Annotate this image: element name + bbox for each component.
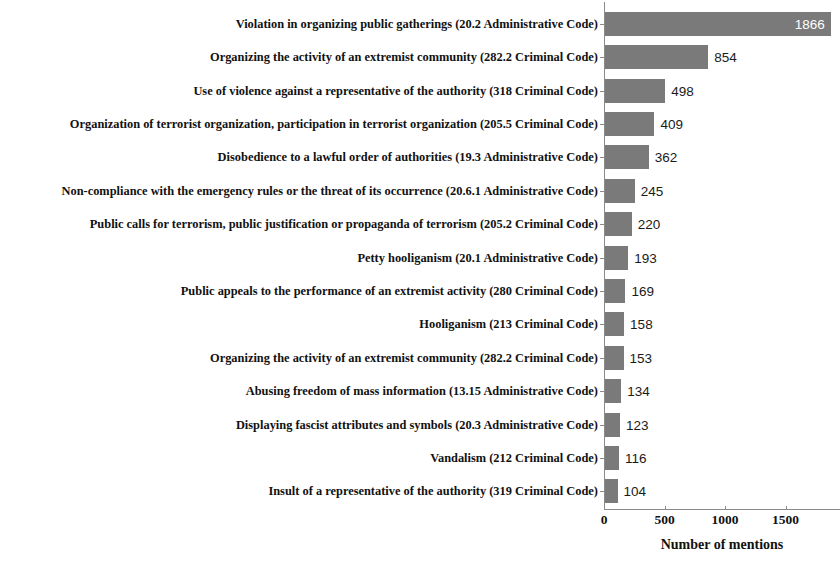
category-label: Public appeals to the performance of an … (181, 284, 598, 297)
bar-value-label: 1866 (795, 16, 825, 31)
category-tick-mark (600, 157, 604, 158)
bar (605, 212, 632, 236)
bar (605, 246, 628, 270)
category-label: Organizing the activity of an extremist … (210, 351, 598, 364)
category-label: Petty hooliganism (20.1 Administrative C… (357, 251, 598, 264)
category-tick-mark (600, 191, 604, 192)
category-label: Hooliganism (213 Criminal Code) (419, 318, 598, 331)
category-label: Organizing the activity of an extremist … (210, 51, 598, 64)
x-axis-tick-label: 0 (601, 512, 608, 528)
category-tick-mark (600, 458, 604, 459)
bar-value-label: 134 (627, 384, 650, 399)
bar-value-label: 409 (660, 116, 683, 131)
bar-value-label: 169 (631, 283, 654, 298)
category-tick-mark (600, 324, 604, 325)
bar (605, 346, 624, 370)
bar-value-label: 123 (626, 417, 649, 432)
category-label: Disobedience to a lawful order of author… (218, 151, 598, 164)
category-label: Displaying fascist attributes and symbol… (236, 418, 598, 431)
category-label: Public calls for terrorism, public justi… (90, 218, 598, 231)
bar-chart: Violation in organizing public gathering… (0, 0, 840, 561)
x-axis-line (604, 509, 840, 510)
category-tick-mark (600, 91, 604, 92)
bar-value-label: 362 (655, 150, 678, 165)
bar (605, 413, 620, 437)
bar-value-label: 854 (714, 50, 737, 65)
bar-value-label: 116 (625, 450, 647, 465)
bar (605, 379, 621, 403)
x-axis-tick-label: 1000 (712, 512, 739, 528)
category-tick-mark (600, 358, 604, 359)
category-label: Non-compliance with the emergency rules … (62, 184, 598, 197)
bar (605, 446, 619, 470)
bar (605, 279, 625, 303)
x-axis-tick-labels: 050010001500 (604, 512, 840, 534)
x-axis-tick-label: 500 (654, 512, 674, 528)
bar (605, 79, 665, 103)
category-tick-mark (600, 224, 604, 225)
category-label: Vandalism (212 Criminal Code) (430, 451, 598, 464)
bar-value-label: 104 (624, 484, 647, 499)
category-label: Use of violence against a representative… (193, 84, 598, 97)
bar (605, 312, 624, 336)
plot-area: 1866854498409362245220193169158153134123… (604, 2, 840, 510)
bar-value-label: 245 (641, 183, 664, 198)
category-axis-labels: Violation in organizing public gathering… (0, 0, 604, 510)
category-tick-mark (600, 124, 604, 125)
category-tick-mark (600, 491, 604, 492)
category-tick-mark (600, 291, 604, 292)
bar (605, 179, 635, 203)
category-tick-mark (600, 391, 604, 392)
category-label: Violation in organizing public gathering… (236, 17, 598, 30)
category-tick-mark (600, 57, 604, 58)
bar (605, 145, 649, 169)
category-tick-mark (600, 258, 604, 259)
category-label: Organization of terrorist organization, … (70, 117, 598, 130)
bar (605, 479, 618, 503)
category-tick-mark (600, 425, 604, 426)
category-label: Abusing freedom of mass information (13.… (246, 385, 598, 398)
category-label: Insult of a representative of the author… (268, 485, 598, 498)
x-axis-title: Number of mentions (604, 537, 840, 553)
bar (605, 112, 654, 136)
bar-value-label: 220 (638, 217, 661, 232)
x-axis-tick-mark (604, 506, 605, 510)
bar-value-label: 153 (630, 350, 653, 365)
category-tick-mark (600, 24, 604, 25)
x-axis-tick-label: 1500 (772, 512, 799, 528)
bar-value-label: 158 (630, 317, 653, 332)
x-axis-tick-mark (665, 506, 666, 510)
bar-value-label: 498 (671, 83, 694, 98)
x-axis-tick-mark (725, 506, 726, 510)
bar (605, 45, 708, 69)
x-axis-tick-mark (786, 506, 787, 510)
bar-value-label: 193 (634, 250, 657, 265)
